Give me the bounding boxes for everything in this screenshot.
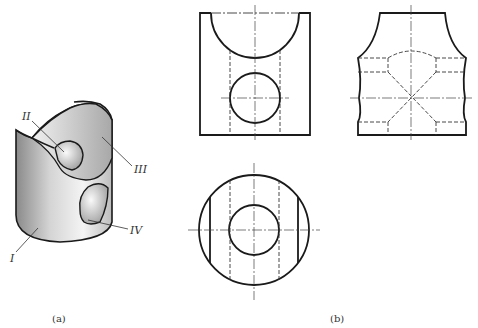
label-i: I	[9, 252, 15, 265]
technical-drawing: II III IV I (a)	[0, 0, 478, 328]
isometric-view: II III IV I	[9, 101, 148, 265]
side-hidden-diag-1	[388, 72, 436, 122]
top-view	[188, 163, 320, 300]
caption-a: (a)	[52, 313, 66, 324]
label-iv: IV	[129, 224, 143, 237]
side-hidden-arc	[388, 51, 436, 58]
side-hidden-diag-2	[388, 72, 436, 122]
side-view	[350, 5, 474, 140]
front-u-cut	[211, 13, 299, 58]
label-iii: III	[133, 163, 148, 176]
front-view	[200, 5, 310, 140]
label-ii: II	[21, 110, 31, 123]
side-outline	[358, 13, 466, 135]
caption-b: (b)	[330, 313, 344, 324]
